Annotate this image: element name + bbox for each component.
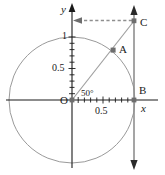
point-marker-A xyxy=(111,48,116,53)
point-marker-C xyxy=(132,18,137,23)
point-label-C: C xyxy=(140,17,147,28)
y-axis-arrowhead xyxy=(69,3,76,12)
tangent-top-arrowhead xyxy=(130,5,137,15)
x-axis-label: x xyxy=(141,103,146,114)
point-marker-O xyxy=(70,98,75,103)
point-label-A: A xyxy=(119,44,127,55)
origin-label: O xyxy=(60,95,68,106)
point-label-B: B xyxy=(139,85,146,96)
dashed-projection-arrowhead xyxy=(73,17,82,24)
tangent-bottom-arrowhead xyxy=(130,160,137,170)
point-marker-B xyxy=(132,98,137,103)
y-tick-label-1: 1 xyxy=(62,31,67,41)
unit-circle-figure: y x O A B C 50° 0.5 1 0.5 xyxy=(0,0,165,175)
y-axis-label: y xyxy=(61,4,66,15)
y-tick-label-0-5: 0.5 xyxy=(52,63,65,73)
angle-label: 50° xyxy=(81,89,94,98)
x-tick-label-0-5: 0.5 xyxy=(95,106,108,116)
